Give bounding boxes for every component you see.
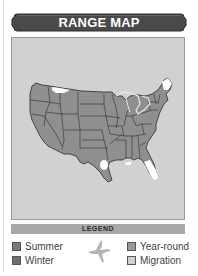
us-states-map: [12, 38, 184, 219]
page-margin-line: [3, 0, 4, 272]
legend-label: Year-round: [140, 241, 189, 252]
summer-swatch: [12, 242, 21, 251]
migration-swatch: [127, 256, 136, 265]
legend-item-year-round: Year-round: [127, 240, 189, 252]
legend-label: Winter: [25, 255, 54, 266]
bird-silhouette-icon: [86, 238, 112, 264]
range-map: [11, 37, 185, 220]
header-title: RANGE MAP: [11, 13, 187, 32]
year-round-swatch: [127, 242, 136, 251]
legend-label: Migration: [140, 255, 181, 266]
legend-item-summer: Summer: [12, 240, 63, 252]
legend-title: LEGEND: [11, 224, 185, 234]
range-map-header: RANGE MAP: [11, 13, 187, 32]
legend-item-winter: Winter: [12, 254, 54, 266]
legend-label: Summer: [25, 241, 63, 252]
legend-item-migration: Migration: [127, 254, 181, 266]
winter-swatch: [12, 256, 21, 265]
